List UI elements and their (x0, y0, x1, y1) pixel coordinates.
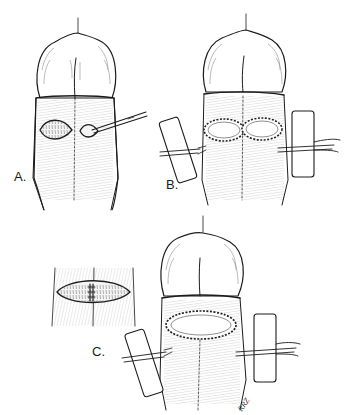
panel-c (52, 216, 300, 410)
panel-label-a: A. (14, 170, 26, 183)
panel-a (33, 18, 147, 210)
surgical-illustration (0, 0, 354, 415)
panel-c-inset (52, 268, 135, 326)
panel-label-c: C. (92, 345, 105, 358)
panel-label-b: B. (166, 178, 178, 191)
drain-left-icon (159, 116, 206, 183)
panel-b (159, 14, 340, 205)
